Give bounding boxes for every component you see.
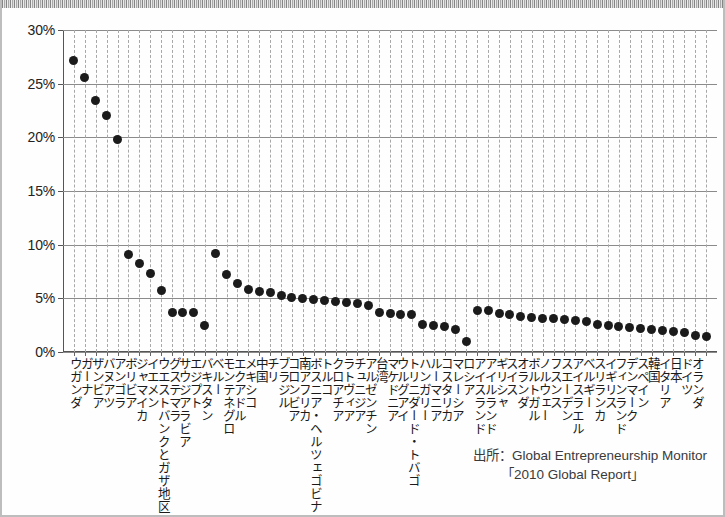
x-tick-mark	[586, 352, 587, 356]
x-tick-mark	[532, 352, 533, 356]
vertical-gridline	[183, 30, 184, 352]
vertical-gridline	[216, 30, 217, 352]
chart-figure: 0%5%10%15%20%25%30% ウガンダガーナザンビアバヌアツアンゴラボ…	[0, 0, 725, 517]
data-point	[189, 308, 198, 317]
data-point	[505, 310, 514, 319]
data-point	[320, 296, 329, 305]
y-axis-tick-label: 5%	[35, 290, 55, 306]
x-tick-mark	[74, 352, 75, 356]
data-point	[342, 298, 351, 307]
x-tick-mark	[85, 352, 86, 356]
x-tick-mark	[521, 352, 522, 356]
y-axis-tick-label: 0%	[35, 344, 55, 360]
vertical-gridline	[150, 30, 151, 352]
vertical-gridline	[619, 30, 620, 352]
x-tick-mark	[379, 352, 380, 356]
vertical-gridline	[663, 30, 664, 352]
x-tick-mark	[564, 352, 565, 356]
x-tick-mark	[161, 352, 162, 356]
vertical-gridline	[161, 30, 162, 352]
vertical-gridline	[499, 30, 500, 352]
vertical-gridline	[684, 30, 685, 352]
data-point	[527, 313, 536, 322]
data-point	[135, 259, 144, 268]
x-tick-mark	[543, 352, 544, 356]
data-point	[255, 287, 264, 296]
vertical-gridline	[466, 30, 467, 352]
data-point	[440, 322, 449, 331]
data-point	[309, 295, 318, 304]
data-point	[113, 135, 122, 144]
data-point	[560, 315, 569, 324]
vertical-gridline	[673, 30, 674, 352]
data-point	[636, 324, 645, 333]
data-point	[582, 317, 591, 326]
data-point	[146, 269, 155, 278]
x-tick-mark	[663, 352, 664, 356]
data-point	[168, 308, 177, 317]
x-tick-mark	[455, 352, 456, 356]
x-tick-mark	[150, 352, 151, 356]
y-tick-mark-25	[58, 84, 63, 85]
x-tick-mark	[641, 352, 642, 356]
x-tick-mark	[118, 352, 119, 356]
x-tick-mark	[292, 352, 293, 356]
plot-area: 0%5%10%15%20%25%30%	[63, 30, 717, 352]
x-tick-mark	[183, 352, 184, 356]
vertical-gridline	[248, 30, 249, 352]
x-tick-mark	[608, 352, 609, 356]
source-line-2: 「2010 Global Report」	[473, 465, 707, 484]
vertical-gridline	[74, 30, 75, 352]
data-point	[516, 312, 525, 321]
x-tick-mark	[139, 352, 140, 356]
data-point	[124, 250, 133, 259]
x-tick-mark	[434, 352, 435, 356]
vertical-gridline	[379, 30, 380, 352]
data-point	[549, 314, 558, 323]
vertical-gridline	[237, 30, 238, 352]
data-point	[233, 279, 242, 288]
x-tick-mark	[96, 352, 97, 356]
x-tick-mark	[237, 352, 238, 356]
vertical-gridline	[281, 30, 282, 352]
x-tick-mark	[575, 352, 576, 356]
vertical-gridline	[172, 30, 173, 352]
vertical-gridline	[641, 30, 642, 352]
vertical-gridline	[423, 30, 424, 352]
source-note: 出所：Global Entrepreneurship Monitor 「2010…	[473, 427, 707, 503]
data-point	[244, 285, 253, 294]
vertical-gridline	[96, 30, 97, 352]
data-point	[691, 331, 700, 340]
y-axis-tick-label: 15%	[28, 183, 55, 199]
vertical-gridline	[554, 30, 555, 352]
x-tick-mark	[619, 352, 620, 356]
y-axis-tick-label: 25%	[28, 76, 55, 92]
data-point	[658, 326, 667, 335]
data-point	[331, 297, 340, 306]
x-tick-mark	[128, 352, 129, 356]
x-tick-mark	[346, 352, 347, 356]
vertical-gridline	[510, 30, 511, 352]
data-point	[69, 56, 78, 65]
x-tick-mark	[510, 352, 511, 356]
vertical-gridline	[575, 30, 576, 352]
data-point	[364, 301, 373, 310]
x-tick-mark	[445, 352, 446, 356]
data-point	[571, 316, 580, 325]
data-point	[178, 308, 187, 317]
x-tick-mark	[216, 352, 217, 356]
x-tick-mark	[554, 352, 555, 356]
vertical-gridline	[543, 30, 544, 352]
data-point	[593, 320, 602, 329]
x-tick-mark	[630, 352, 631, 356]
x-tick-mark	[336, 352, 337, 356]
x-tick-mark	[107, 352, 108, 356]
vertical-gridline	[139, 30, 140, 352]
x-tick-mark	[390, 352, 391, 356]
x-tick-mark	[477, 352, 478, 356]
y-axis-tick-label: 20%	[28, 129, 55, 145]
data-point	[418, 320, 427, 329]
vertical-gridline	[630, 30, 631, 352]
data-point	[495, 309, 504, 318]
vertical-gridline	[532, 30, 533, 352]
